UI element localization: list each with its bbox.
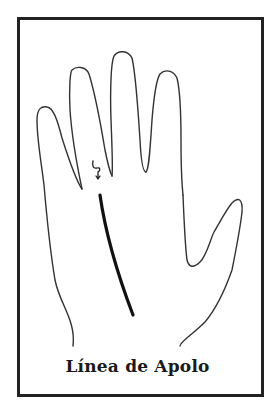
ring-finger-outline [70, 67, 112, 189]
middle-finger-outline [111, 52, 146, 176]
hand-illustration [0, 0, 275, 409]
thumb-outline [180, 195, 242, 346]
hand-outline-left [37, 107, 82, 346]
figure-caption: Línea de Apolo [0, 356, 275, 376]
apollo-line [100, 195, 133, 315]
index-finger-outline [146, 71, 183, 195]
apollo-symbol-icon [93, 161, 100, 179]
